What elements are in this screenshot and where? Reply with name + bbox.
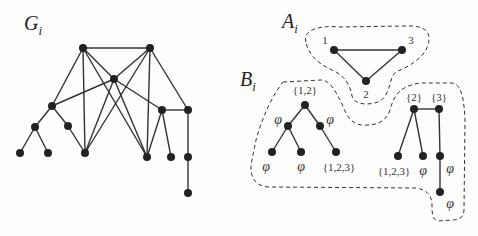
g-node [146, 44, 154, 52]
b-node-label: φ [419, 163, 427, 178]
g-edge [35, 127, 48, 153]
b-edge [439, 109, 440, 156]
g-node [44, 149, 52, 157]
b-node [394, 152, 402, 160]
b-node [268, 148, 276, 156]
b-node-label: φ [262, 159, 270, 174]
b-edge [320, 126, 336, 152]
g-node [31, 123, 39, 131]
diagram-svg: 132{1,2}φφφφ{1,2,3}{2}{3}{1,2,3}φφφ Gi A… [0, 0, 478, 236]
b-edge [272, 126, 288, 152]
b-node-label: φ [446, 196, 454, 211]
g-node [16, 149, 24, 157]
g-node [184, 106, 192, 114]
g-edge [162, 110, 171, 157]
b-node-label: φ [446, 161, 454, 176]
b-node-label: {1,2,3} [323, 161, 356, 173]
b-edge [398, 109, 414, 156]
b-node-label: {2} [406, 91, 422, 103]
a-edge [366, 50, 402, 81]
b-node [410, 105, 418, 113]
dashed-outlines [251, 26, 465, 221]
g-edge [52, 48, 83, 106]
a-title: Ai [280, 10, 298, 36]
g-node [184, 189, 192, 197]
b-edge [288, 105, 305, 126]
b-title: Bi [240, 68, 256, 94]
a-node-label: 3 [408, 34, 414, 46]
b-node-label: φ [297, 159, 305, 174]
g-node [48, 102, 56, 110]
g-node [81, 149, 89, 157]
a-node [330, 46, 338, 54]
g-node [167, 153, 175, 161]
g-edge [150, 48, 188, 110]
diagram-canvas: 132{1,2}φφφφ{1,2,3}{2}{3}{1,2,3}φφφ Gi A… [0, 0, 478, 236]
g-edge [35, 106, 52, 127]
a-node [398, 46, 406, 54]
b-node [316, 122, 324, 130]
g-edge [68, 126, 85, 153]
b-node-label: φ [274, 112, 282, 127]
b-node [301, 101, 309, 109]
g-node [158, 106, 166, 114]
g-edge [114, 48, 150, 79]
b-node [297, 148, 305, 156]
a-node-label: 2 [363, 88, 369, 100]
b-node-label: {1,2} [293, 84, 317, 96]
g-node [64, 122, 72, 130]
b-node [284, 122, 292, 130]
b-node [419, 152, 427, 160]
a-node-label: 1 [322, 34, 328, 46]
g-edge [114, 79, 147, 157]
b-node-label: φ [326, 112, 334, 127]
b-node [436, 152, 444, 160]
g-node [110, 75, 118, 83]
b-edge [414, 109, 423, 156]
g-edge [83, 48, 85, 153]
g-title: Gi [24, 12, 42, 38]
g-node [184, 153, 192, 161]
b-node [435, 105, 443, 113]
g-edge [147, 110, 162, 157]
g-node [143, 153, 151, 161]
b-node [332, 148, 340, 156]
g-edge [85, 48, 150, 153]
g-edge [20, 127, 35, 153]
a-node [362, 77, 370, 85]
a-edge [334, 50, 366, 81]
g-node [79, 44, 87, 52]
b-edge [288, 126, 301, 152]
b-node-label: {3} [431, 91, 447, 103]
b-node-label: {1,2,3} [378, 165, 411, 177]
b-node [436, 188, 444, 196]
